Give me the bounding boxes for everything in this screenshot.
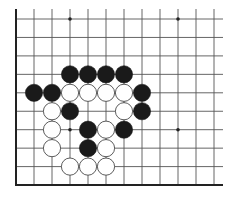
black-stone [115,66,132,83]
black-stone [133,84,150,101]
white-stone [61,84,78,101]
star-point [68,17,72,21]
white-stone [79,84,96,101]
white-stone [43,121,60,138]
go-board-diagram [0,0,236,199]
black-stone [79,121,96,138]
black-stone [79,140,96,157]
star-point [176,128,180,132]
black-stone [25,84,42,101]
white-stone [115,84,132,101]
white-stone [115,103,132,120]
white-stone [97,158,114,175]
white-stone [61,158,78,175]
white-stone [97,140,114,157]
black-stone [115,121,132,138]
white-stone [97,121,114,138]
black-stone [61,103,78,120]
black-stone [43,84,60,101]
black-stone [97,66,114,83]
black-stone [61,66,78,83]
star-point [68,128,72,132]
black-stone [79,66,96,83]
white-stone [43,140,60,157]
white-stone [97,84,114,101]
white-stone [79,158,96,175]
star-point [176,17,180,21]
black-stone [133,103,150,120]
white-stone [43,103,60,120]
